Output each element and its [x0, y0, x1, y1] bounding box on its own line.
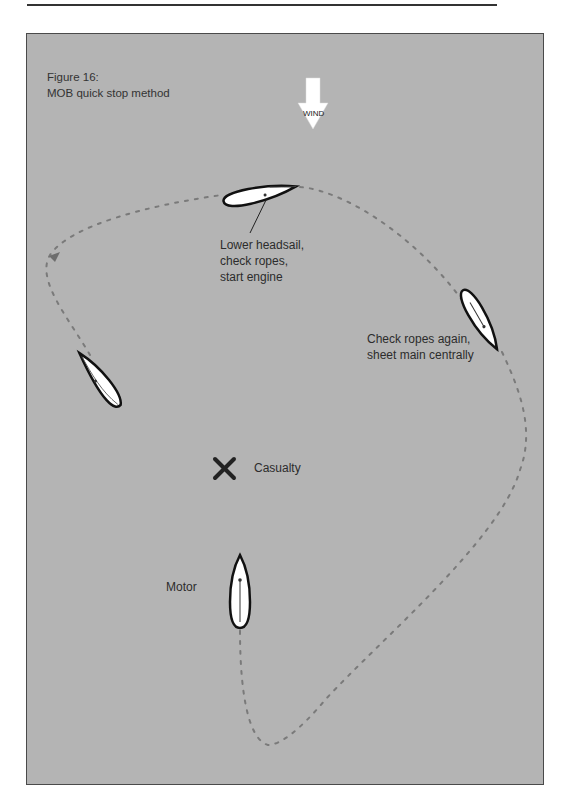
boat-icon — [230, 555, 250, 628]
mob-diagram: WIND — [0, 0, 572, 806]
label-check-ropes-again: Check ropes again, sheet main centrally — [367, 331, 474, 363]
figure-caption: Figure 16: MOB quick stop method — [47, 69, 170, 101]
label-casualty: Casualty — [254, 460, 301, 476]
figure-title: MOB quick stop method — [47, 85, 170, 101]
figure-number: Figure 16: — [47, 69, 170, 85]
label-motor: Motor — [166, 579, 197, 595]
boat-icon — [75, 348, 125, 410]
boat-icon — [222, 181, 298, 209]
wind-label: WIND — [303, 109, 325, 118]
wind-arrow-icon — [298, 78, 328, 129]
label-lower-headsail: Lower headsail, check ropes, start engin… — [220, 237, 304, 285]
x-mark-icon — [215, 459, 234, 478]
